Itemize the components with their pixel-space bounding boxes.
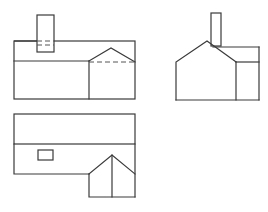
top-chimney xyxy=(38,150,53,160)
top-roof-front xyxy=(14,144,89,174)
front-chimney xyxy=(37,15,54,52)
top-roof-back xyxy=(14,114,135,144)
side-gable xyxy=(176,41,236,100)
side-view xyxy=(176,13,259,100)
front-main-outline xyxy=(14,41,135,99)
front-wing-gable xyxy=(89,48,135,62)
orthographic-drawing xyxy=(0,0,268,212)
top-view xyxy=(14,114,135,197)
side-chimney xyxy=(211,13,221,46)
front-view xyxy=(14,15,135,99)
